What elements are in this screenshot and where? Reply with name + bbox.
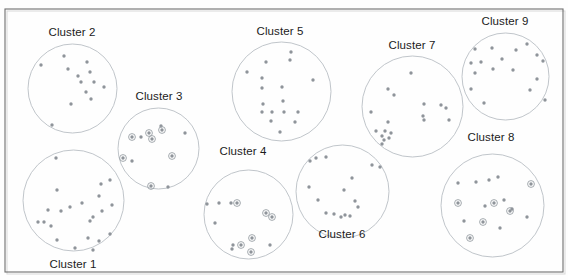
data-point	[479, 60, 482, 63]
data-point	[389, 131, 392, 134]
data-point	[535, 53, 538, 56]
data-point	[529, 182, 532, 185]
data-point	[496, 175, 499, 178]
data-point	[149, 184, 152, 187]
cluster-label-2: Cluster 2	[49, 26, 96, 38]
data-point	[353, 199, 356, 202]
data-point	[473, 71, 476, 74]
data-point	[39, 63, 42, 66]
data-point	[268, 243, 271, 246]
data-point	[374, 129, 377, 132]
data-point	[474, 180, 477, 183]
data-point	[54, 156, 57, 159]
data-point	[409, 71, 412, 74]
data-point	[339, 215, 342, 218]
data-point	[481, 220, 484, 223]
cluster-label-9: Cluster 9	[482, 15, 529, 27]
data-point	[296, 110, 299, 113]
cluster-scatter-figure: Cluster 1Cluster 2Cluster 3Cluster 4Clus…	[0, 0, 568, 280]
data-point	[282, 110, 285, 113]
data-point	[108, 178, 111, 181]
data-point	[380, 134, 383, 137]
data-point	[217, 201, 220, 204]
data-point	[490, 46, 493, 49]
cluster-label-8: Cluster 8	[468, 131, 515, 143]
data-point	[239, 243, 242, 246]
data-point	[324, 155, 327, 158]
data-point	[73, 246, 76, 249]
data-point	[261, 102, 264, 105]
data-point	[469, 87, 472, 90]
data-point	[510, 207, 513, 210]
data-point	[36, 220, 39, 223]
data-point	[528, 88, 531, 91]
data-point	[324, 211, 327, 214]
data-point	[369, 110, 372, 113]
data-point	[514, 48, 517, 51]
data-point	[110, 203, 113, 206]
data-point	[62, 54, 65, 57]
data-point	[100, 209, 103, 212]
data-point	[348, 214, 351, 217]
data-point	[482, 101, 485, 104]
data-point	[80, 201, 83, 204]
data-point	[380, 142, 383, 145]
data-point	[492, 201, 495, 204]
data-point	[213, 221, 216, 224]
data-point	[307, 185, 310, 188]
data-point	[422, 102, 425, 105]
data-point	[89, 97, 92, 100]
data-point	[543, 98, 546, 101]
data-point	[68, 205, 71, 208]
data-point	[473, 47, 476, 50]
data-point	[456, 181, 459, 184]
data-point	[130, 159, 133, 162]
data-point	[231, 243, 234, 246]
data-point	[491, 67, 494, 70]
data-point	[498, 226, 501, 229]
data-point	[150, 137, 153, 140]
data-point	[356, 205, 359, 208]
data-point	[86, 236, 89, 239]
data-point	[382, 138, 385, 141]
data-point	[439, 103, 442, 106]
data-point	[91, 248, 94, 251]
data-point	[49, 224, 52, 227]
data-point	[121, 156, 124, 159]
data-point	[97, 194, 100, 197]
data-point	[541, 59, 544, 62]
data-point	[269, 119, 272, 122]
data-point	[343, 213, 346, 216]
data-point	[392, 93, 395, 96]
data-point	[249, 250, 252, 253]
data-point	[483, 204, 486, 207]
data-point	[500, 57, 503, 60]
cluster-label-1: Cluster 1	[50, 258, 97, 270]
data-point	[280, 85, 283, 88]
data-point	[311, 78, 314, 81]
data-point	[278, 130, 281, 133]
data-point	[447, 118, 450, 121]
data-point	[387, 136, 390, 139]
cluster-scatter-svg: Cluster 1Cluster 2Cluster 3Cluster 4Clus…	[0, 0, 568, 280]
data-point	[350, 176, 353, 179]
cluster-label-5: Cluster 5	[257, 25, 304, 37]
data-point	[332, 212, 335, 215]
data-point	[245, 70, 248, 73]
data-point	[270, 215, 273, 218]
data-point	[535, 77, 538, 80]
data-point	[289, 50, 292, 53]
data-point	[99, 182, 102, 185]
data-point	[386, 120, 389, 123]
data-point	[183, 131, 186, 134]
data-point	[97, 239, 100, 242]
data-point	[487, 178, 490, 181]
data-point	[91, 215, 94, 218]
data-point	[383, 129, 386, 132]
data-point	[511, 68, 514, 71]
data-point	[88, 219, 91, 222]
data-point	[46, 208, 49, 211]
data-point	[55, 238, 58, 241]
data-point	[342, 188, 345, 191]
data-point	[230, 247, 233, 250]
